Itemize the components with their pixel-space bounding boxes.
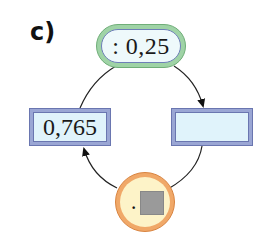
multiply-dot-icon: · bbox=[131, 200, 136, 216]
left-value-text: 0,765 bbox=[33, 112, 107, 142]
top-operator-text: : 0,25 bbox=[101, 29, 181, 63]
blank-square-placeholder[interactable] bbox=[140, 191, 164, 215]
arc-left-to-top bbox=[80, 66, 116, 108]
right-value-box[interactable] bbox=[171, 108, 253, 146]
left-value-box: 0,765 bbox=[29, 108, 111, 146]
bottom-operator-circle: · bbox=[115, 172, 175, 232]
right-value-blank[interactable] bbox=[175, 112, 249, 142]
bottom-operator-inner: · bbox=[120, 177, 170, 227]
arc-right-to-bottom bbox=[168, 146, 202, 189]
top-operator-oval: : 0,25 bbox=[96, 24, 186, 68]
arc-top-to-right bbox=[174, 66, 203, 106]
arc-bottom-to-left bbox=[84, 149, 117, 188]
